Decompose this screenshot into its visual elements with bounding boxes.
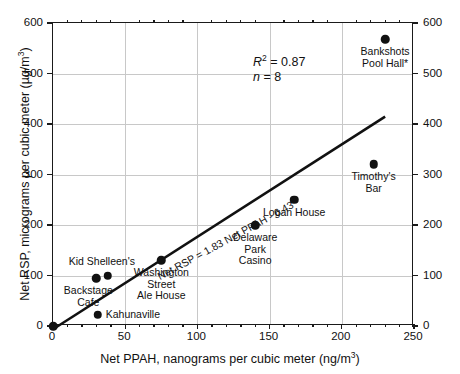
data-point-label: Logan House bbox=[263, 207, 325, 219]
y-axis-tick-label-right: 400 bbox=[423, 117, 442, 129]
y-axis-title-superscript: 3 bbox=[16, 52, 26, 57]
y-axis-title-tail: ) bbox=[18, 47, 32, 51]
y-axis-tick-label-right: 500 bbox=[423, 67, 442, 79]
data-point bbox=[49, 322, 58, 331]
x-axis-tick-label: 250 bbox=[403, 330, 422, 342]
x-axis-tick-label: 200 bbox=[331, 330, 350, 342]
x-axis-tick-label: 50 bbox=[118, 330, 131, 342]
y-axis-tick-label-left: 0 bbox=[37, 319, 43, 331]
n-value: = 8 bbox=[260, 70, 281, 84]
data-point bbox=[251, 221, 260, 230]
data-point bbox=[369, 160, 378, 169]
n-symbol: n bbox=[253, 70, 260, 84]
data-point-label: Backstage Cafe bbox=[64, 285, 113, 308]
y-axis-tick-label-right: 300 bbox=[423, 168, 442, 180]
y-axis-tick-label-right: 600 bbox=[423, 16, 442, 28]
data-point-label: Delaware Park Casino bbox=[233, 232, 277, 267]
y-axis-tick-label-left: 100 bbox=[24, 269, 43, 281]
data-point-label: Timothy's Bar bbox=[351, 171, 395, 194]
data-point bbox=[104, 271, 113, 280]
data-point bbox=[290, 196, 299, 205]
data-point bbox=[157, 256, 166, 265]
data-point-label: Kahunaville bbox=[106, 309, 160, 321]
x-axis-title-tail: ) bbox=[356, 352, 360, 366]
r-squared-value: = 0.87 bbox=[267, 55, 306, 69]
scatter-chart: Net RSP, micrograms per cubic meter (µg/… bbox=[0, 0, 460, 374]
y-axis-tick-label-left: 200 bbox=[24, 218, 43, 230]
statistics-annotation: R2 = 0.87 n = 8 bbox=[253, 51, 305, 85]
x-axis-title: Net PPAH, nanograms per cubic meter (ng/… bbox=[0, 350, 460, 366]
x-axis-tick-label: 100 bbox=[187, 330, 206, 342]
plot-area: Net RSP = 1.83 Net PPAH - 6.43 Kahunavil… bbox=[52, 22, 413, 325]
data-point bbox=[92, 274, 101, 283]
x-axis-tick-label: 150 bbox=[259, 330, 278, 342]
data-point bbox=[94, 311, 103, 320]
data-point-label: Kid Shelleen's bbox=[69, 256, 135, 268]
data-point-label: Washington Street Ale House bbox=[134, 267, 189, 302]
data-point-label: Bankshots Pool Hall* bbox=[361, 46, 410, 69]
x-axis-title-main: Net PPAH, nanograms per cubic meter (ng/… bbox=[100, 352, 351, 366]
y-axis-tick-label-right: 0 bbox=[423, 319, 429, 331]
y-axis-tick-label-left: 600 bbox=[24, 16, 43, 28]
y-axis-tick-label-right: 200 bbox=[423, 218, 442, 230]
y-axis-tick-label-left: 300 bbox=[24, 168, 43, 180]
r-squared-symbol: R bbox=[253, 55, 262, 69]
y-axis-tick-label-left: 400 bbox=[24, 117, 43, 129]
y-axis-tick-label-right: 100 bbox=[423, 269, 442, 281]
x-axis-tick-label: 0 bbox=[49, 330, 55, 342]
data-point bbox=[381, 35, 390, 44]
y-axis-tick-label-left: 500 bbox=[24, 67, 43, 79]
